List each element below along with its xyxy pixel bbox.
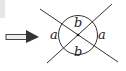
right-arrow-icon — [6, 30, 39, 43]
diagram-canvas: b b a a — [0, 0, 126, 71]
label-top: b — [74, 15, 82, 30]
intersection-point — [77, 34, 80, 37]
label-bottom: b — [74, 44, 82, 59]
vertical-angles-diagram: b b a a — [0, 0, 126, 71]
label-right: a — [98, 27, 106, 42]
label-left: a — [50, 27, 58, 42]
